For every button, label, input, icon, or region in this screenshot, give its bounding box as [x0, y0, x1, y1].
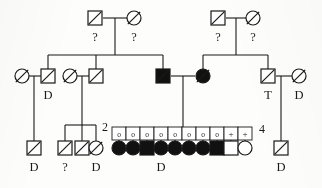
pedigree-symbol-male	[89, 69, 103, 83]
sibship-count-label: 2	[102, 120, 108, 134]
pedigree-canvas: ????DTDD?DoooDooooo++D24	[0, 0, 322, 188]
pedigree-chart-figure: ????DTDD?DoooDooooo++D24	[0, 0, 322, 188]
member-label-below: D	[276, 160, 285, 174]
member-label-below: ?	[92, 30, 98, 44]
member-label-above: o	[131, 130, 135, 139]
member-label-below: ?	[250, 30, 256, 44]
member-label-above: o	[173, 130, 177, 139]
member-label-below: T	[264, 88, 272, 102]
sibship-count-label: 4	[259, 122, 265, 136]
pedigree-symbol-affected-male	[156, 69, 170, 83]
member-label-below: D	[29, 160, 38, 174]
pedigree-symbol-affected-male	[210, 141, 224, 155]
pedigree-symbol-male	[274, 141, 288, 155]
pedigree-symbol-affected-female	[168, 141, 182, 155]
female-circle	[182, 141, 196, 155]
pedigree-symbol-male	[58, 141, 72, 155]
member-label-below: ?	[215, 30, 221, 44]
pedigree-symbol-affected-female	[112, 141, 126, 155]
member-label-above: o	[145, 130, 149, 139]
pedigree-symbol-male	[41, 69, 55, 83]
female-circle	[126, 141, 140, 155]
member-label-above: o	[159, 130, 163, 139]
female-circle	[168, 141, 182, 155]
pedigree-symbol-male	[75, 141, 89, 155]
pedigree-symbol-affected-female	[126, 141, 140, 155]
pedigree-symbol-female	[127, 11, 141, 25]
pedigree-symbol-affected-female	[196, 69, 210, 83]
member-label-above: +	[242, 129, 247, 139]
pedigree-symbol-female	[246, 11, 260, 25]
pedigree-symbol-female	[89, 141, 103, 155]
member-label-below: ?	[131, 30, 137, 44]
pedigree-symbol-affected-female	[182, 141, 196, 155]
pedigree-symbol-affected-male	[140, 141, 154, 155]
pedigree-symbol-affected-female	[154, 141, 168, 155]
female-circle	[238, 141, 252, 155]
member-label-above: o	[215, 130, 219, 139]
pedigree-symbol-female	[63, 69, 77, 83]
female-circle	[112, 141, 126, 155]
pedigree-symbol-female	[238, 141, 252, 155]
member-label-below: D	[43, 88, 52, 102]
male-square	[140, 141, 154, 155]
pedigree-symbol-male	[27, 141, 41, 155]
female-circle	[196, 141, 210, 155]
pedigree-symbol-male	[211, 11, 225, 25]
member-label-above: o	[187, 130, 191, 139]
pedigree-symbol-male	[261, 69, 275, 83]
pedigree-symbol-female	[15, 69, 29, 83]
pedigree-symbol-male	[224, 141, 238, 155]
pedigree-symbol-male	[88, 11, 102, 25]
member-label-above: o	[201, 130, 205, 139]
pedigree-symbol-female	[292, 69, 306, 83]
member-label-below: D	[91, 160, 100, 174]
member-label-below: ?	[62, 160, 68, 174]
pedigree-symbol-affected-female	[196, 141, 210, 155]
male-square	[210, 141, 224, 155]
member-label-above: o	[117, 130, 121, 139]
female-circle	[154, 141, 168, 155]
member-label-below: D	[156, 160, 165, 174]
member-label-below: D	[294, 88, 303, 102]
male-square	[224, 141, 238, 155]
member-label-above: +	[228, 129, 233, 139]
